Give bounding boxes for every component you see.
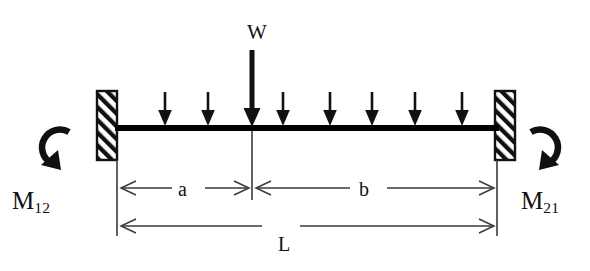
moment-right-label: M21 — [521, 188, 559, 213]
moment-left-label: M12 — [12, 188, 50, 213]
dimension-l-label: L — [278, 234, 290, 254]
beam-member — [115, 125, 499, 131]
moment-left-subscript: 12 — [34, 199, 50, 216]
udl-arrow — [455, 92, 469, 126]
moment-right-symbol: M — [521, 187, 543, 214]
udl-arrow — [365, 92, 379, 126]
udl-arrow — [276, 92, 290, 126]
udl-arrow — [323, 92, 337, 126]
moment-left-symbol: M — [12, 187, 34, 214]
right-fixed-support — [495, 91, 515, 236]
moment-right-subscript: 21 — [543, 199, 559, 216]
left-fixed-support — [97, 91, 117, 236]
left-moment-arrow — [41, 130, 69, 170]
udl-arrow — [408, 92, 422, 126]
dimension-l — [121, 219, 494, 233]
right-moment-arrow — [531, 130, 559, 170]
point-load-arrow — [244, 50, 261, 127]
udl-arrow — [158, 92, 172, 126]
distributed-load-arrows — [158, 92, 469, 126]
dimension-b — [256, 181, 494, 195]
point-load-label: W — [247, 22, 267, 43]
dimension-b-label: b — [359, 179, 369, 199]
beam-free-body-diagram: W M12 M21 a b L — [0, 0, 590, 271]
udl-arrow — [201, 92, 215, 126]
diagram-canvas — [0, 0, 590, 271]
dimension-a-label: a — [178, 179, 187, 199]
